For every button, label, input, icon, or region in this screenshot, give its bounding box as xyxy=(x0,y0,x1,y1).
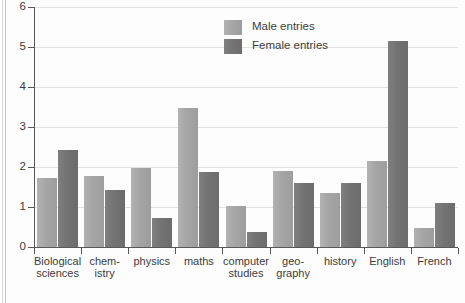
y-tick-label-1: 1 xyxy=(2,201,26,213)
legend-swatch-female-icon xyxy=(224,39,242,54)
bar xyxy=(247,232,267,247)
y-tick-label-4: 4 xyxy=(2,81,26,93)
y-axis-labels: 0123456 xyxy=(0,0,26,303)
x-tick-origin xyxy=(34,248,35,254)
bar xyxy=(341,183,361,247)
bar xyxy=(58,150,78,247)
bar xyxy=(178,108,198,247)
x-tick-1 xyxy=(128,248,129,254)
bar xyxy=(226,206,246,247)
legend-item-female: Female entries xyxy=(224,38,328,54)
legend-label-female: Female entries xyxy=(252,40,328,52)
y-tick-label-6: 6 xyxy=(2,1,26,13)
x-tick-2 xyxy=(175,248,176,254)
bar xyxy=(273,171,293,247)
x-axis-line xyxy=(34,247,458,248)
bar xyxy=(131,168,151,247)
bar xyxy=(199,172,219,247)
bar xyxy=(435,203,455,247)
x-tick-3 xyxy=(222,248,223,254)
x-axis-category-labels: Biological scienceschem- istryphysicsmat… xyxy=(34,256,458,286)
bar xyxy=(152,218,172,247)
y-tick-label-5: 5 xyxy=(2,41,26,53)
bar xyxy=(388,41,408,247)
x-tick-0 xyxy=(81,248,82,254)
bar xyxy=(414,228,434,247)
legend-label-male: Male entries xyxy=(252,21,315,33)
y-tick-label-0: 0 xyxy=(2,241,26,253)
bar xyxy=(294,183,314,247)
bar xyxy=(367,161,387,247)
x-tick-4 xyxy=(270,248,271,254)
chart-screenshot: 0123456 Male entries Female entries Biol… xyxy=(0,0,465,303)
x-tick-6 xyxy=(364,248,365,254)
legend-item-male: Male entries xyxy=(224,19,315,35)
bar xyxy=(320,193,340,247)
x-tick-7 xyxy=(411,248,412,254)
bar xyxy=(37,178,57,247)
y-tick-label-2: 2 xyxy=(2,161,26,173)
x-category-label: French xyxy=(405,256,464,268)
bar xyxy=(105,190,125,247)
bar xyxy=(84,176,104,247)
legend-swatch-male-icon xyxy=(224,20,242,35)
x-tick-8 xyxy=(458,248,459,254)
x-tick-5 xyxy=(317,248,318,254)
y-tick-label-3: 3 xyxy=(2,121,26,133)
grouped-bar-chart: 0123456 Male entries Female entries Biol… xyxy=(0,0,465,303)
